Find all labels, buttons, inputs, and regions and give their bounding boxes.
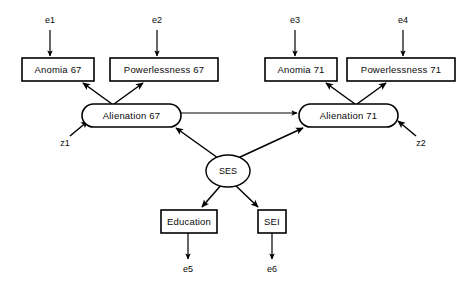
node-anomia67-label: Anomia 67 [34, 64, 81, 75]
loading-path-alienation71-to-anomia71 [326, 83, 355, 104]
loading-path-alienation67-to-anomia67 [83, 83, 112, 104]
disturbance-term-z1: z1 [60, 138, 70, 148]
disturbance-term-z2: z2 [416, 138, 426, 148]
loading-path-ses-to-sei [234, 184, 258, 207]
error-term-e2: e2 [152, 15, 162, 25]
node-sei-label: SEI [264, 216, 280, 227]
node-alienation71[interactable]: Alienation 71 [299, 104, 398, 127]
node-powerlessness67-label: Powerlessness 67 [124, 64, 204, 75]
node-alienation67-label: Alienation 67 [103, 110, 161, 121]
error-term-e4: e4 [398, 15, 408, 25]
sem-path-diagram: Anomia 67 Powerlessness 67 Anomia 71 Pow… [0, 0, 473, 289]
loading-path-alienation71-to-powerlessness71 [357, 83, 386, 104]
node-alienation71-label: Alienation 71 [320, 110, 378, 121]
error-term-e5: e5 [183, 264, 193, 274]
error-term-e1: e1 [45, 15, 55, 25]
error-term-e3: e3 [290, 15, 300, 25]
structural-path-ses-to-alienation67 [176, 128, 218, 158]
loading-path-alienation67-to-powerlessness67 [114, 83, 143, 104]
disturbance-path-z2-to-alienation71 [398, 121, 416, 136]
node-alienation67[interactable]: Alienation 67 [82, 104, 181, 127]
node-powerlessness67[interactable]: Powerlessness 67 [110, 58, 218, 81]
node-powerlessness71-label: Powerlessness 71 [361, 64, 441, 75]
node-sei[interactable]: SEI [258, 210, 286, 233]
node-powerlessness71[interactable]: Powerlessness 71 [347, 58, 455, 81]
node-anomia67[interactable]: Anomia 67 [22, 58, 94, 81]
loading-path-ses-to-education [202, 184, 222, 207]
node-education-label: Education [167, 216, 211, 227]
node-anomia71-label: Anomia 71 [277, 64, 324, 75]
node-education[interactable]: Education [161, 210, 217, 233]
structural-path-ses-to-alienation71 [238, 128, 303, 158]
diagram-canvas: Anomia 67 Powerlessness 67 Anomia 71 Pow… [0, 0, 473, 289]
error-term-e6: e6 [267, 264, 277, 274]
node-ses[interactable]: SES [206, 155, 250, 187]
node-anomia71[interactable]: Anomia 71 [265, 58, 337, 81]
node-ses-label: SES [219, 166, 237, 176]
